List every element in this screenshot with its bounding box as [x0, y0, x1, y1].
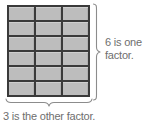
grid-cell: [36, 52, 61, 65]
grid-cell: [36, 82, 61, 95]
grid-cell: [63, 82, 88, 95]
array-grid: [7, 5, 90, 97]
grid-cell: [36, 7, 61, 20]
grid-cell: [63, 52, 88, 65]
horizontal-brace-icon: [5, 98, 93, 109]
grid-cell: [36, 37, 61, 50]
grid-cell: [9, 22, 34, 35]
grid-cell: [9, 52, 34, 65]
vertical-brace-icon: [91, 3, 103, 101]
grid-cell: [36, 22, 61, 35]
grid-cell: [9, 67, 34, 80]
grid-cell: [63, 7, 88, 20]
grid-cell: [63, 67, 88, 80]
grid-cell: [63, 37, 88, 50]
horizontal-factor-label-line1: 3 is the other factor.: [3, 110, 150, 123]
vertical-factor-label: 6 is one factor.: [105, 36, 150, 62]
grid-cell: [9, 7, 34, 20]
grid-cell: [63, 22, 88, 35]
vertical-factor-label-line2: factor.: [105, 49, 150, 62]
vertical-factor-label-line1: 6 is one: [105, 36, 150, 49]
figure-container: 6 is one factor. 3 is the other factor.: [0, 0, 150, 127]
grid-cell: [9, 37, 34, 50]
horizontal-factor-label: 3 is the other factor.: [3, 110, 150, 123]
grid-cell: [9, 82, 34, 95]
grid-cell: [36, 67, 61, 80]
